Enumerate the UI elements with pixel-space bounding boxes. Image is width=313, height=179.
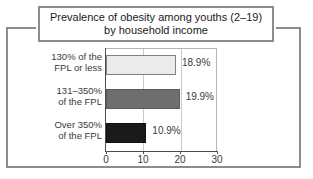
x-tick-label-20: 20 — [170, 154, 190, 166]
bar-row: 130% of the FPL or less 18.9% — [0, 48, 313, 82]
bar-1 — [106, 89, 180, 109]
x-tick-mark-0 — [106, 151, 107, 154]
bar-2 — [106, 123, 146, 143]
category-label-2: Over 350% of the FPL — [18, 119, 102, 141]
value-label-2: 10.9% — [152, 125, 180, 137]
bar-chart: 130% of the FPL or less 18.9% 131–350% o… — [0, 46, 313, 166]
chart-title-box: Prevalence of obesity among youths (2–19… — [38, 6, 274, 42]
category-label-0: 130% of the FPL or less — [18, 51, 102, 73]
bar-row: 131–350% of the FPL 19.9% — [0, 82, 313, 116]
x-tick-mark-20 — [180, 151, 181, 154]
bar-0 — [106, 55, 176, 75]
x-axis-tick-labels: 0102030 — [0, 154, 313, 168]
value-label-1: 19.9% — [186, 91, 214, 103]
chart-title: Prevalence of obesity among youths (2–19… — [46, 11, 266, 37]
x-tick-label-30: 30 — [207, 154, 227, 166]
category-label-1: 131–350% of the FPL — [18, 85, 102, 107]
value-label-0: 18.9% — [182, 57, 210, 69]
x-axis-line — [105, 151, 218, 152]
x-tick-label-10: 10 — [133, 154, 153, 166]
x-tick-mark-10 — [143, 151, 144, 154]
bar-row: Over 350% of the FPL 10.9% — [0, 116, 313, 150]
x-tick-label-0: 0 — [96, 154, 116, 166]
x-tick-mark-30 — [217, 151, 218, 154]
